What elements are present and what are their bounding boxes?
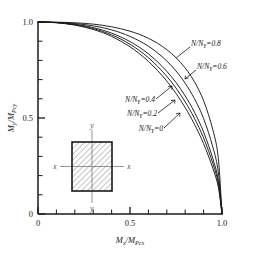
x-tick-label-1: 0.5 [125, 218, 136, 228]
biaxial-moment-interaction-chart: 0 0.5 1.0 0 0.5 1.0 Mx/MPcx My/MPcy [0, 0, 257, 254]
x-tick-label-2: 1.0 [217, 218, 228, 228]
y-tick-label-0: 0 [29, 209, 33, 219]
curve-label-02: N/NY=0.2 [126, 109, 157, 119]
inset-label-x-left: x [52, 162, 57, 171]
inset-label-y-bottom: y [89, 204, 94, 213]
y-axis-title-den-sub: Pcy [11, 103, 17, 113]
x-axis-title-den-sub: Pcx [134, 240, 144, 246]
curve-label-08: N/NY=0.8 [190, 39, 221, 49]
chart-figure: 0 0.5 1.0 0 0.5 1.0 Mx/MPcx My/MPcy [0, 0, 257, 254]
curve-label-00: N/NY=0 [138, 124, 163, 134]
curve-label-06: N/NY=0.6 [196, 62, 227, 72]
curve-label-04: N/NY=0.4 [124, 95, 155, 105]
inset-rectangle-section [72, 142, 112, 191]
inset-label-y-top: y [89, 121, 94, 130]
x-tick-label-0: 0 [36, 218, 40, 228]
inset-label-x-right: x [126, 162, 131, 171]
y-tick-label-1: 0.5 [22, 113, 33, 123]
y-tick-label-2: 1.0 [22, 17, 33, 27]
